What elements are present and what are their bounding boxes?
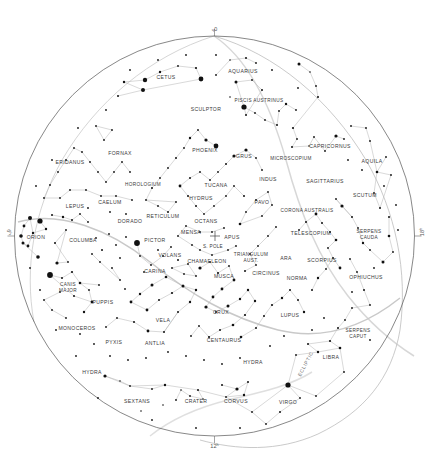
star xyxy=(103,139,105,141)
star xyxy=(317,351,319,353)
constellation-label: MICROSCOPIUM xyxy=(270,156,312,161)
constellation-label: CAPRICORNUS xyxy=(309,143,351,149)
constellation-label: ORION xyxy=(27,234,45,240)
star xyxy=(97,171,99,173)
star xyxy=(251,411,253,413)
star xyxy=(255,62,257,64)
star xyxy=(369,249,371,251)
star xyxy=(93,343,95,345)
star xyxy=(257,245,259,247)
star xyxy=(245,114,247,116)
star xyxy=(101,249,103,251)
star xyxy=(244,270,246,272)
star xyxy=(183,147,185,149)
star xyxy=(158,299,160,301)
star xyxy=(327,247,329,249)
star xyxy=(189,301,191,303)
star xyxy=(271,204,273,206)
star xyxy=(105,326,107,328)
constellation-label: DORADO xyxy=(118,218,142,224)
star xyxy=(351,216,353,218)
star xyxy=(115,195,117,197)
constellation-label: GRUS xyxy=(236,153,252,159)
star xyxy=(69,189,71,191)
star xyxy=(295,354,297,356)
constellation-label: PICTOR xyxy=(144,237,165,243)
star xyxy=(211,254,213,256)
star xyxy=(392,251,394,253)
constellation-label: TUCANA xyxy=(204,182,227,188)
star xyxy=(278,110,280,112)
star xyxy=(334,134,337,137)
star xyxy=(123,81,125,83)
star xyxy=(109,211,111,213)
constellation-label: LIBRA xyxy=(323,354,340,360)
star xyxy=(71,271,73,273)
star xyxy=(113,171,115,173)
star xyxy=(219,329,221,331)
star xyxy=(291,146,293,148)
constellation-label: PHOENIX xyxy=(192,147,218,153)
star xyxy=(51,159,53,161)
constellation-label: CIRCINUS xyxy=(252,270,280,276)
star xyxy=(159,177,161,179)
constellation-label: CRATER xyxy=(185,398,208,404)
star xyxy=(388,235,391,238)
constellation-label: CRUX xyxy=(213,309,229,315)
star xyxy=(373,267,375,269)
constellation-label: MONOCEROS xyxy=(58,325,95,331)
star xyxy=(71,219,73,221)
star xyxy=(147,330,150,333)
star xyxy=(151,187,153,189)
star xyxy=(254,300,256,302)
star xyxy=(124,288,126,290)
star xyxy=(221,384,223,386)
constellation-label: AQUARIUS xyxy=(228,68,258,74)
star xyxy=(95,125,97,127)
star xyxy=(335,198,337,200)
star xyxy=(116,317,118,319)
star xyxy=(108,233,110,235)
star xyxy=(311,329,313,331)
constellation-label: APUS xyxy=(224,234,240,240)
star xyxy=(244,314,246,316)
star xyxy=(297,87,299,89)
star xyxy=(239,357,241,359)
star xyxy=(73,295,75,297)
star xyxy=(324,150,326,152)
constellation-label: SEXTANS xyxy=(124,398,150,404)
constellation-label: RETICULUM xyxy=(147,213,180,219)
star xyxy=(325,268,327,270)
star xyxy=(309,71,311,73)
star xyxy=(335,239,338,242)
star xyxy=(397,229,399,231)
star xyxy=(180,389,182,391)
star xyxy=(195,289,197,291)
star xyxy=(376,171,379,174)
star xyxy=(281,297,283,299)
constellation-label: OCTANS xyxy=(195,218,218,224)
star xyxy=(105,109,107,111)
star xyxy=(209,179,211,181)
star xyxy=(349,258,351,260)
star xyxy=(195,67,197,69)
star xyxy=(239,298,241,300)
constellation-label: INDUS xyxy=(259,176,277,182)
star xyxy=(54,242,56,244)
star xyxy=(263,315,265,317)
star xyxy=(261,215,263,217)
star xyxy=(232,324,235,327)
star xyxy=(115,244,117,246)
star xyxy=(97,397,99,399)
star xyxy=(157,205,159,207)
star xyxy=(343,138,345,140)
star xyxy=(150,264,152,266)
star xyxy=(217,171,219,173)
star xyxy=(111,267,113,269)
star xyxy=(131,199,133,201)
star xyxy=(299,397,301,399)
star xyxy=(111,129,113,131)
star xyxy=(88,289,90,291)
star xyxy=(157,59,159,61)
star xyxy=(87,221,89,223)
